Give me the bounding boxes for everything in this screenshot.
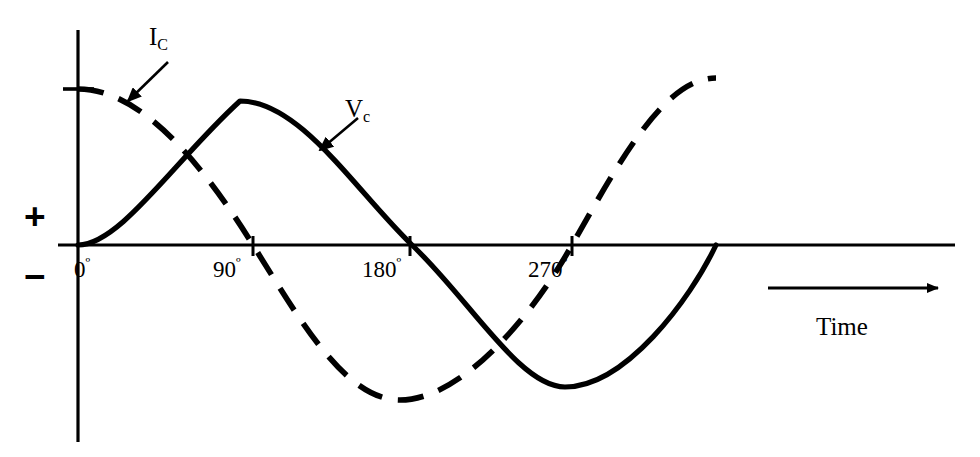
x-tick-label-90-value: 90 (213, 257, 236, 282)
x-tick-label-180: 180º (362, 258, 401, 281)
curve-label-vc-sub: c (363, 108, 370, 125)
x-tick-label-270-value: 270 (528, 257, 563, 282)
plot-canvas (0, 0, 980, 457)
curve-label-ic-sub: C (157, 36, 168, 53)
curve-label-ic: IC (149, 24, 168, 49)
y-axis-positive-sign: + (24, 198, 46, 235)
x-tick-label-0-degree: º (86, 255, 91, 271)
x-tick-label-0-value: 0 (74, 257, 86, 282)
ic-annotation-arrow (128, 62, 168, 101)
x-tick-label-90: 90º (213, 258, 241, 281)
vc-annotation-arrow (320, 118, 358, 150)
curve-label-vc-main: V (345, 95, 363, 122)
y-axis-negative-sign: − (24, 258, 46, 295)
x-tick-label-0: 0º (74, 258, 90, 281)
x-tick-label-180-value: 180 (362, 257, 397, 282)
x-axis-name-label: Time (816, 314, 868, 339)
x-tick-label-270-degree: º (563, 255, 568, 271)
x-tick-label-180-degree: º (397, 255, 402, 271)
waveform-figure: IC Vc + − 0º 90º 180º 270º Time (0, 0, 980, 457)
curve-ic-dashed (78, 78, 716, 400)
x-tick-label-270: 270º (528, 258, 567, 281)
x-tick-label-90-degree: º (236, 255, 241, 271)
curve-label-vc: Vc (345, 96, 370, 121)
